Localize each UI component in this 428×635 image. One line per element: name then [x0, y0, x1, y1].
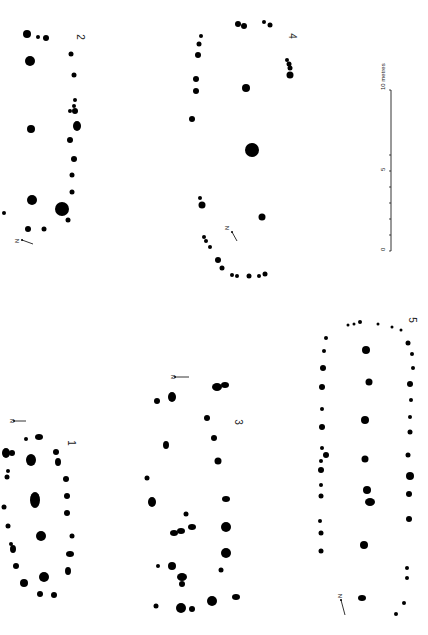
- post-hole: [2, 448, 10, 458]
- post-hole: [163, 441, 169, 449]
- post-hole: [64, 493, 70, 499]
- post-hole: [20, 579, 28, 587]
- post-hole: [73, 121, 81, 131]
- post-hole: [235, 21, 241, 27]
- post-hole: [5, 475, 10, 480]
- post-hole: [204, 415, 210, 421]
- post-hole: [319, 384, 325, 390]
- post-hole: [177, 573, 187, 581]
- post-hole: [257, 274, 261, 278]
- post-hole: [320, 407, 324, 411]
- post-hole: [360, 541, 368, 549]
- north-label: N: [14, 239, 20, 243]
- post-hole: [319, 549, 324, 554]
- building-plan-5: 5N: [318, 317, 418, 616]
- post-hole: [55, 458, 61, 466]
- north-arrow-icon: [341, 600, 345, 615]
- post-hole: [394, 612, 398, 616]
- post-hole: [319, 483, 323, 487]
- post-hole: [285, 58, 289, 62]
- post-hole: [211, 435, 217, 441]
- post-hole: [36, 531, 46, 541]
- post-hole: [410, 352, 414, 356]
- building-plan-1: 1N: [2, 419, 78, 598]
- post-hole: [319, 459, 323, 463]
- post-hole: [39, 572, 49, 582]
- post-hole: [24, 437, 28, 441]
- post-hole: [64, 510, 70, 516]
- post-hole: [322, 349, 326, 353]
- post-hole: [73, 98, 77, 102]
- post-hole: [25, 56, 35, 66]
- post-hole: [400, 329, 403, 332]
- post-hole: [6, 469, 10, 473]
- post-hole: [26, 454, 36, 466]
- post-hole: [221, 548, 231, 558]
- post-hole: [37, 591, 43, 597]
- post-hole: [320, 446, 324, 450]
- post-hole: [27, 125, 35, 133]
- post-hole: [406, 453, 411, 458]
- post-hole: [358, 595, 366, 601]
- post-hole: [318, 467, 324, 473]
- post-hole: [2, 211, 6, 215]
- post-hole: [2, 505, 7, 510]
- post-hole: [199, 202, 206, 209]
- post-hole: [262, 20, 266, 24]
- post-hole: [208, 245, 212, 249]
- post-hole: [319, 494, 324, 499]
- post-hole: [406, 516, 412, 522]
- site-plan-figure: 1N2N3N4N5N 0510 metres: [0, 0, 428, 635]
- post-hole: [408, 430, 413, 435]
- post-hole: [195, 52, 201, 58]
- north-arrow-icon: [22, 240, 33, 244]
- post-hole: [36, 35, 40, 39]
- post-hole: [55, 202, 69, 216]
- post-hole: [207, 596, 217, 606]
- building-plan-4: 4N: [189, 20, 298, 279]
- post-hole: [72, 104, 76, 108]
- post-hole: [288, 66, 293, 71]
- post-hole: [70, 534, 75, 539]
- post-hole: [247, 274, 252, 279]
- plan-number-label: 1: [66, 440, 77, 446]
- post-hole: [242, 84, 250, 92]
- post-hole: [323, 452, 329, 458]
- building-plans: 1N2N3N4N5N: [2, 20, 419, 616]
- post-hole: [154, 398, 160, 404]
- post-hole: [259, 214, 266, 221]
- post-hole: [366, 379, 373, 386]
- post-hole: [35, 434, 43, 440]
- post-hole: [63, 476, 69, 482]
- post-hole: [319, 531, 324, 536]
- post-hole: [65, 567, 71, 575]
- post-hole: [27, 195, 37, 205]
- scale-label: 10 metres: [380, 63, 386, 90]
- post-hole: [71, 156, 77, 162]
- post-hole: [168, 392, 176, 402]
- post-hole: [72, 73, 77, 78]
- post-hole: [362, 346, 370, 354]
- post-hole: [318, 519, 322, 523]
- post-hole: [66, 551, 74, 557]
- post-hole: [215, 458, 222, 465]
- post-hole: [23, 30, 31, 38]
- north-arrowhead-icon: [13, 420, 15, 422]
- post-hole: [406, 341, 411, 346]
- north-arrowhead-icon: [340, 599, 342, 601]
- post-hole: [179, 581, 185, 587]
- post-hole: [235, 274, 239, 278]
- building-plan-3: 3N: [145, 375, 245, 613]
- post-hole: [268, 23, 273, 28]
- post-hole: [170, 530, 178, 536]
- plan-number-label: 5: [407, 317, 418, 323]
- post-hole: [204, 239, 208, 243]
- post-hole: [148, 497, 156, 507]
- post-hole: [391, 326, 394, 329]
- scale-label: 5: [380, 167, 386, 171]
- post-hole: [199, 34, 203, 38]
- north-arrowhead-icon: [231, 231, 233, 233]
- post-hole: [221, 522, 231, 532]
- post-hole: [320, 365, 326, 371]
- post-hole: [407, 381, 413, 387]
